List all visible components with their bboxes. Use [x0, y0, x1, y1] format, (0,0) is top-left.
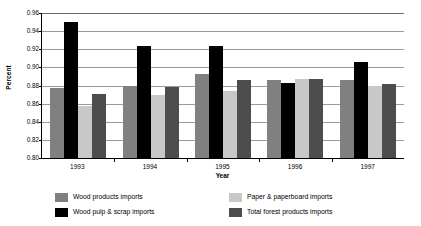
legend-item: Paper & paperboard imports	[229, 190, 395, 205]
bar	[223, 91, 237, 158]
bar-group	[259, 13, 331, 158]
legend-label: Wood pulp & scrap imports	[73, 209, 154, 216]
bar	[165, 87, 179, 158]
bar	[368, 86, 382, 158]
legend-label: Paper & paperboard imports	[247, 194, 332, 201]
bar	[123, 86, 137, 159]
bar-group	[114, 13, 186, 158]
bar	[295, 79, 309, 158]
bar	[281, 83, 295, 158]
bar-group	[42, 13, 114, 158]
bar-group	[187, 13, 259, 158]
legend-item: Wood pulp & scrap imports	[55, 205, 221, 220]
x-axis-title: Year	[41, 172, 404, 179]
bar	[354, 62, 368, 158]
bar-chart: Percent 0.960.940.920.900.880.860.840.82…	[0, 0, 421, 226]
bar	[64, 22, 78, 158]
y-axis-tick-label: 0.86	[27, 100, 39, 106]
plot-frame: 0.960.940.920.900.880.860.840.820.80	[41, 13, 404, 159]
bar	[50, 88, 64, 158]
y-axis-tick-label: 0.94	[27, 28, 39, 34]
y-axis-tick-label: 0.90	[27, 64, 39, 70]
bar	[267, 80, 281, 158]
bar	[209, 46, 223, 158]
legend-item: Total forest products imports	[229, 205, 395, 220]
bar	[382, 84, 396, 158]
chart-legend: Wood products importsPaper & paperboard …	[55, 190, 395, 220]
y-axis-tick-label: 0.92	[27, 46, 39, 52]
bar	[78, 106, 92, 158]
plot-area: 0.960.940.920.900.880.860.840.820.80	[41, 13, 404, 159]
legend-swatch	[229, 208, 242, 217]
bar-groups	[42, 13, 404, 158]
y-axis-title: Percent	[2, 0, 14, 155]
bar	[237, 80, 251, 158]
legend-swatch	[229, 193, 242, 202]
y-axis-tick-label: 0.96	[27, 10, 39, 16]
y-axis-tick-label: 0.84	[27, 119, 39, 125]
bar	[151, 95, 165, 158]
legend-label: Wood products imports	[73, 194, 143, 201]
legend-swatch	[55, 208, 68, 217]
y-axis-tick-label: 0.82	[27, 137, 39, 143]
y-axis-tick-label: 0.88	[27, 82, 39, 88]
bar	[340, 80, 354, 158]
y-axis-tick-mark	[39, 158, 42, 159]
legend-swatch	[55, 193, 68, 202]
bar	[137, 46, 151, 158]
legend-item: Wood products imports	[55, 190, 221, 205]
y-axis-tick-label: 0.80	[27, 155, 39, 161]
legend-label: Total forest products imports	[247, 209, 332, 216]
bar-group	[332, 13, 404, 158]
bar	[309, 79, 323, 158]
bar	[195, 74, 209, 158]
bar	[92, 94, 106, 158]
y-axis-title-label: Percent	[5, 65, 12, 90]
